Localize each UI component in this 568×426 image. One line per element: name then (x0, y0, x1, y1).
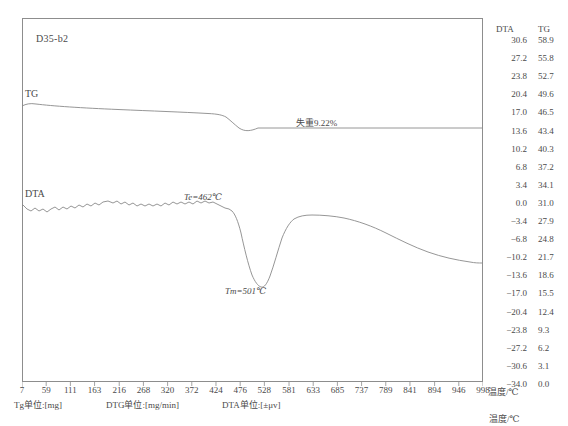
tg-tick-label: 9.3 (538, 325, 549, 335)
unit-dtg-label: DTG单位:[mg/min] (106, 398, 179, 411)
dta-tick-label: −3.4 (511, 216, 527, 226)
unit-dta-label: DTA单位:[±μv] (222, 398, 281, 411)
tg-tick-label: 40.3 (538, 144, 554, 154)
dta-tick-label: −17.0 (506, 288, 527, 298)
dta-tick-label: 6.8 (516, 162, 527, 172)
tg-tick-label: 43.4 (538, 126, 554, 136)
temperature-axis-caption: 温度/℃ (489, 412, 520, 425)
tg-curve (22, 104, 482, 131)
tg-tick-label: 15.5 (538, 288, 554, 298)
dta-tick-label: −6.8 (511, 234, 527, 244)
dta-tick-label: 20.4 (511, 89, 527, 99)
dta-tick-label: 0.0 (516, 198, 527, 208)
unit-legend-row: Tg单位:[mg] DTG单位:[mg/min] DTA单位:[±μv] (0, 398, 568, 412)
dta-tick-label: 10.2 (511, 144, 527, 154)
onset-temperature-annotation: Te=462℃ (184, 192, 222, 202)
tg-tick-label: 18.6 (538, 270, 554, 280)
tg-tick-label: 52.7 (538, 71, 554, 81)
tg-tick-label: 46.5 (538, 107, 554, 117)
weight-loss-annotation: 失重9.22% (296, 116, 337, 129)
tg-curve-label: TG (25, 88, 38, 99)
dta-tick-label: 27.2 (511, 53, 527, 63)
dta-tick-label: −20.4 (506, 307, 527, 317)
peak-temperature-annotation: Tm=501℃ (225, 286, 266, 296)
thermal-analysis-figure: D35-b2 TG DTA 失重9.22% Te=462℃ Tm=501℃ 75… (0, 0, 568, 426)
tg-tick-label: 24.8 (538, 234, 554, 244)
tg-tick-label: 0.0 (538, 379, 549, 389)
x-axis-tick-marks (22, 382, 483, 387)
dta-tick-label: −30.6 (506, 361, 527, 371)
tg-tick-label: 31.0 (538, 198, 554, 208)
tg-column-header: TG (538, 24, 550, 34)
dta-tick-label: −23.8 (506, 325, 527, 335)
tg-tick-label: 55.8 (538, 53, 554, 63)
unit-tg-label: Tg单位:[mg] (14, 398, 62, 411)
dta-tick-label: 17.0 (511, 107, 527, 117)
tg-tick-label: 37.2 (538, 162, 554, 172)
dta-curve-label: DTA (25, 188, 45, 199)
tg-tick-label: 21.7 (538, 252, 554, 262)
dta-tick-label: −13.6 (506, 270, 527, 280)
tg-tick-label: 6.2 (538, 343, 549, 353)
dta-tick-label: 30.6 (511, 35, 527, 45)
tg-tick-label: 12.4 (538, 307, 554, 317)
sample-id-label: D35-b2 (36, 33, 68, 44)
dta-curve (22, 201, 482, 287)
dta-tick-label: −10.2 (506, 252, 527, 262)
dta-column-header: DTA (496, 24, 514, 34)
dta-tick-label: −27.2 (506, 343, 527, 353)
x-axis-tick-labels: 7591111632162683203724244765285816336857… (0, 385, 568, 399)
tg-tick-label: 27.9 (538, 216, 554, 226)
curve-layer (22, 18, 483, 382)
tg-tick-label: 3.1 (538, 361, 549, 371)
dta-tick-label: 23.8 (511, 71, 527, 81)
tg-tick-label: 34.1 (538, 180, 554, 190)
dta-tick-label: −34.0 (506, 379, 527, 389)
right-axis-panel: DTA TG 温度/℃ 30.658.927.255.823.852.720.4… (489, 24, 568, 386)
tg-tick-label: 58.9 (538, 35, 554, 45)
tg-tick-label: 49.6 (538, 89, 554, 99)
dta-tick-label: 3.4 (516, 180, 527, 190)
dta-tick-label: 13.6 (511, 126, 527, 136)
